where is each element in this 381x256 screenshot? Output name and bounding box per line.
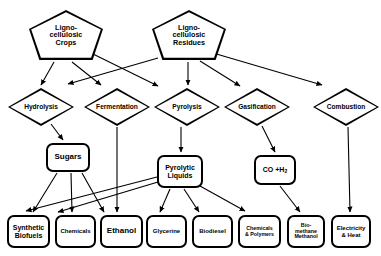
node-hydrolysis-label: Hydrolysis xyxy=(24,104,58,111)
node-gasification: Gasification xyxy=(224,88,290,126)
node-combustion-label: Combustion xyxy=(327,104,365,111)
node-sugars: Sugars xyxy=(46,143,90,172)
node-coh2-label: CO +H2 xyxy=(261,166,289,173)
node-chempoly-label: Chemicals& Polymers xyxy=(243,226,276,237)
node-chemicals-label: Chemicals xyxy=(58,228,92,234)
edge-residues-to-gasification xyxy=(200,61,240,86)
edge-residues-to-fermentation xyxy=(68,58,158,84)
node-pyrolysis: Pyrolysis xyxy=(154,88,220,126)
edge-pyroliquids-to-biodiesel xyxy=(184,189,199,212)
node-electricity-label: Electricity& Heat xyxy=(335,225,368,238)
node-glycerine: Glycerine xyxy=(146,215,187,248)
node-sugars-label: Sugars xyxy=(52,153,83,161)
node-biodiesel-label: Biodiesel xyxy=(197,228,228,234)
node-fermentation-label: Fermentation xyxy=(96,104,138,111)
flowchart-diagram: Ligno-cellulosicCropsLigno-cellulosicRes… xyxy=(0,0,381,256)
node-residues: Ligno-cellulosicResidues xyxy=(152,10,226,60)
edge-pyroliquids-to-glycerine xyxy=(160,189,170,212)
node-ethanol: Ethanol xyxy=(100,215,143,248)
edge-crops-to-fermentation xyxy=(72,62,101,85)
edge-pyroliquids-to-chemicals xyxy=(58,182,158,212)
node-pyrolysis-label: Pyrolysis xyxy=(172,104,201,111)
node-synthbio-label: SyntheticBiofuels xyxy=(11,224,47,239)
node-pyroliquids: PyrolyticLiquids xyxy=(157,155,203,188)
edge-combustion-to-electricity xyxy=(348,127,350,212)
node-electricity: Electricity& Heat xyxy=(331,215,371,248)
edge-crops-to-pyrolysis xyxy=(91,53,158,86)
node-crops-label: Ligno-cellulosicCrops xyxy=(50,24,83,47)
node-coh2: CO +H2 xyxy=(254,155,296,185)
node-residues-label: Ligno-cellulosicResidues xyxy=(173,24,206,47)
node-biomethane: Bio-methaneMethanol xyxy=(287,215,325,248)
edge-gasification-to-coh2 xyxy=(262,126,275,152)
edge-sugars-to-chemicals xyxy=(71,173,72,212)
edge-pyroliquids-to-chempoly xyxy=(200,186,245,211)
node-synthbio: SyntheticBiofuels xyxy=(7,215,50,248)
node-hydrolysis: Hydrolysis xyxy=(8,88,74,126)
edge-hydrolysis-to-sugars xyxy=(51,124,63,140)
node-chempoly: Chemicals& Polymers xyxy=(238,215,281,248)
node-biomethane-label: Bio-methaneMethanol xyxy=(292,223,319,240)
edge-residues-to-combustion xyxy=(213,53,322,85)
node-gasification-label: Gasification xyxy=(238,104,276,111)
edge-sugars-to-ethanol xyxy=(82,173,104,212)
edge-pyroliquids-to-synthbio xyxy=(26,177,157,211)
node-glycerine-label: Glycerine xyxy=(151,228,182,234)
node-pyroliquids-label: PyrolyticLiquids xyxy=(163,164,197,179)
node-chemicals: Chemicals xyxy=(55,215,96,248)
node-combustion: Combustion xyxy=(313,88,379,126)
node-fermentation: Fermentation xyxy=(84,88,150,126)
edge-coh2-to-biomethane xyxy=(280,186,300,212)
node-crops: Ligno-cellulosicCrops xyxy=(29,10,103,60)
node-ethanol-label: Ethanol xyxy=(105,227,138,235)
edge-crops-to-hydrolysis xyxy=(41,62,54,85)
edge-sugars-to-synthbio xyxy=(33,173,57,212)
node-biodiesel: Biodiesel xyxy=(192,215,233,248)
